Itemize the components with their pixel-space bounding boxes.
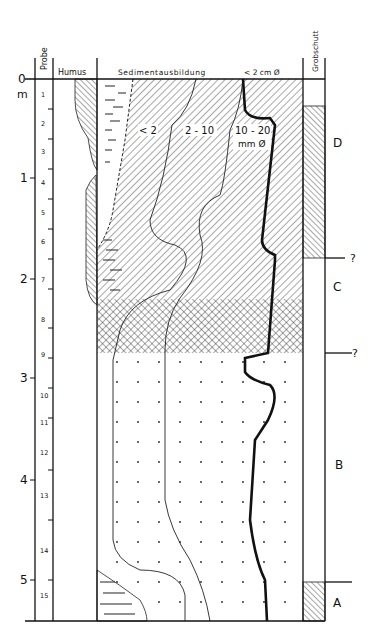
unit-label-A: A [333,596,342,610]
depth-tick-4: 4 [20,473,28,487]
header-grobschutt: Grobschutt [311,30,320,72]
depth-tick-0: 0 [18,72,26,86]
unit-boundary-uncertain-lower: ? [352,347,358,360]
fraction-label-unit: mm Ø [238,139,265,149]
fraction-label-2-10: 2 - 10 [185,125,214,136]
sediment-profile-diagram: Probe Humus Sedimentausbildung < 2 cm Ø … [0,0,373,641]
sample-9: 9 [41,351,45,359]
unit-boundary-uncertain-upper: ? [350,252,356,265]
sample-7: 7 [41,276,45,284]
sample-2: 2 [41,120,45,128]
sample-4: 4 [41,179,45,187]
depth-unit: m [17,88,28,101]
header-sediment: Sedimentausbildung [118,68,206,77]
humus-fills [75,79,97,305]
unit-label-D: D [333,136,342,150]
grobschutt-block-lower [303,582,325,621]
depth-tick-5: 5 [20,573,28,587]
sample-3: 3 [41,148,45,156]
sample-6: 6 [41,238,45,246]
strat-units: D ? C ? B A [333,136,358,610]
sample-14: 14 [40,547,48,555]
header-fraction: < 2 cm Ø [244,68,280,77]
depth-tick-2: 2 [20,272,28,286]
header-probe: Probe [40,47,49,70]
depth-axis: 0 m 1 2 3 4 5 [17,72,28,587]
sample-8: 8 [41,316,45,324]
sample-12: 12 [40,449,48,457]
sample-5: 5 [41,209,45,217]
unit-label-B: B [335,458,343,472]
fraction-label-lt2: < 2 [139,125,157,136]
depth-tick-1: 1 [20,171,28,185]
sample-10: 10 [40,392,48,400]
sample-numbers: 1 2 3 4 5 6 7 8 9 10 11 12 13 14 15 [40,91,48,600]
grobschutt-block-upper [303,106,325,258]
sample-13: 13 [40,492,48,500]
unit-label-C: C [333,280,341,294]
depth-tick-3: 3 [20,371,28,385]
header-humus: Humus [58,68,86,77]
sample-15: 15 [40,592,48,600]
sample-1: 1 [41,91,45,99]
sample-11: 11 [40,419,48,427]
fraction-label-10-20: 10 - 20 [235,125,270,136]
